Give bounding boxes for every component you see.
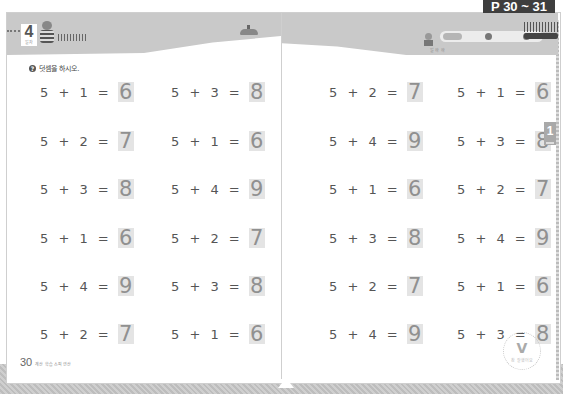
equation: 5 + 2 =7 (329, 81, 423, 103)
question-icon: ? (29, 65, 36, 72)
answer-box[interactable]: 9 (249, 179, 265, 199)
answer-box[interactable]: 6 (407, 179, 423, 199)
answer-box[interactable]: 6 (535, 276, 551, 296)
equation: 5 + 2 =7 (40, 130, 134, 152)
equation: 5 + 1 =6 (171, 130, 265, 152)
boy-illustration-icon (38, 21, 56, 45)
lesson-badge: 4 일차 (21, 24, 37, 46)
spine-notch (278, 378, 294, 388)
answer-box[interactable]: 9 (535, 228, 551, 248)
answer-box[interactable]: 8 (249, 82, 265, 102)
page-range-label: P 30 ~ 31 (483, 0, 555, 13)
equation: 5 + 3 =8 (171, 275, 265, 297)
train-illustration-icon (524, 22, 560, 42)
answer-box[interactable]: 9 (407, 324, 423, 344)
answer-box[interactable]: 7 (535, 179, 551, 199)
page-gutter (281, 12, 282, 379)
equation: 5 + 4 =9 (329, 130, 423, 152)
equation: 5 + 1 =6 (40, 81, 134, 103)
instruction-text: 덧셈을 하시오. (39, 63, 79, 73)
praise-stamp-icon: V 참 잘했어요 (503, 332, 541, 370)
equation: 5 + 1 =6 (457, 81, 551, 103)
answer-box[interactable]: 7 (249, 228, 265, 248)
fence-icon (58, 34, 86, 41)
answer-box[interactable]: 7 (407, 82, 423, 102)
footer-text: 계산 학습 스피 연산 (35, 361, 71, 367)
answer-box[interactable]: 8 (407, 228, 423, 248)
page-footer: 30 계산 학습 스피 연산 (20, 356, 71, 368)
equation: 5 + 4 =9 (329, 323, 423, 345)
equation: 5 + 1 =6 (457, 275, 551, 297)
progress-segment (443, 33, 462, 40)
equation: 5 + 2 =7 (329, 275, 423, 297)
page-number: 30 (20, 356, 32, 368)
kid-illustration-icon (422, 33, 436, 47)
answer-box[interactable]: 6 (118, 228, 134, 248)
equation: 5 + 3 =8 (171, 81, 265, 103)
answer-box[interactable]: 6 (249, 131, 265, 151)
equation: 5 + 3 =8 (329, 227, 423, 249)
equation: 5 + 1 =6 (171, 323, 265, 345)
answer-box[interactable]: 6 (535, 82, 551, 102)
lesson-sub-label: 일차 (21, 40, 37, 45)
answer-box[interactable]: 9 (407, 131, 423, 151)
progress-dot (485, 33, 492, 40)
page-stack-edge (556, 20, 559, 380)
equation: 5 + 3 =8 (40, 178, 134, 200)
lesson-number: 4 (21, 24, 37, 40)
instruction: ? 덧셈을 하시오. (29, 63, 79, 73)
answer-box[interactable]: 7 (407, 276, 423, 296)
answer-box[interactable]: 6 (118, 82, 134, 102)
answer-box[interactable]: 8 (118, 179, 134, 199)
answer-box[interactable]: 7 (118, 324, 134, 344)
fence-icon (7, 30, 20, 37)
answer-box[interactable]: 7 (118, 131, 134, 151)
equation: 5 + 2 =7 (171, 227, 265, 249)
answer-box[interactable]: 6 (249, 324, 265, 344)
equation: 5 + 3 =8 (457, 130, 551, 152)
chapter-tab[interactable]: 1 (544, 122, 556, 145)
answer-box[interactable]: 8 (249, 276, 265, 296)
equation: 5 + 4 =9 (457, 227, 551, 249)
equation: 5 + 1 =6 (40, 227, 134, 249)
answer-box[interactable]: 9 (118, 276, 134, 296)
equation: 5 + 2 =7 (457, 178, 551, 200)
car-illustration-icon (240, 25, 258, 35)
equation: 5 + 2 =7 (40, 323, 134, 345)
equation: 5 + 4 =9 (171, 178, 265, 200)
equation: 5 + 4 =9 (40, 275, 134, 297)
equation: 5 + 1 =6 (329, 178, 423, 200)
kid-caption: 일 하 하 (430, 47, 445, 53)
